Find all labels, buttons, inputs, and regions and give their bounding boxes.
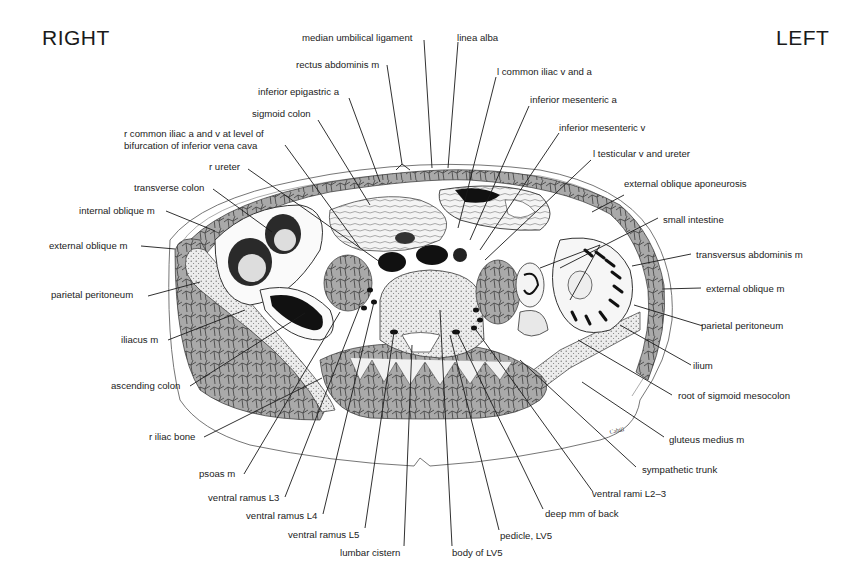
label-inferior-mesenteric-v: inferior mesenteric v bbox=[559, 122, 645, 133]
label-iliacus-m: iliacus m bbox=[121, 334, 158, 345]
label-internal-oblique-m: internal oblique m bbox=[79, 205, 155, 216]
label-parietal-peritoneum-right: parietal peritoneum bbox=[51, 289, 133, 300]
label-external-oblique-aponeurosis: external oblique aponeurosis bbox=[624, 178, 747, 189]
label-lumbar-cistern: lumbar cistern bbox=[340, 547, 400, 558]
label-sigmoid-colon: sigmoid colon bbox=[252, 108, 311, 119]
label-gluteus-medius-m: gluteus medius m bbox=[669, 434, 744, 445]
right-psoas bbox=[324, 255, 372, 311]
orientation-left: LEFT bbox=[776, 26, 829, 50]
label-rectus-abdominis-m: rectus abdominis m bbox=[296, 59, 379, 70]
label-ventral-ramus-l3: ventral ramus L3 bbox=[208, 492, 279, 503]
label-root-of-sigmoid-mesocolon: root of sigmoid mesocolon bbox=[678, 390, 790, 401]
label-ventral-ramus-l5: ventral ramus L5 bbox=[288, 529, 359, 540]
label-transverse-colon: transverse colon bbox=[134, 182, 204, 193]
orientation-right: RIGHT bbox=[42, 26, 110, 50]
label-ventral-rami-l2-3: ventral rami L2–3 bbox=[592, 488, 666, 499]
label-transversus-abdominis-m: transversus abdominis m bbox=[696, 249, 803, 260]
label-pedicle-lv5: pedicle, LV5 bbox=[500, 530, 552, 541]
label-ilium: ilium bbox=[693, 360, 713, 371]
label-l-common-iliac-v-and-a: l common iliac v and a bbox=[497, 66, 592, 77]
label-r-iliac-bone: r iliac bone bbox=[149, 431, 195, 442]
label-parietal-peritoneum-left: parietal peritoneum bbox=[701, 320, 783, 331]
label-inferior-mesenteric-a: inferior mesenteric a bbox=[530, 94, 617, 105]
label-r-common-iliac-line1: r common iliac a and v at level of bbox=[124, 128, 264, 139]
label-linea-alba: linea alba bbox=[457, 32, 498, 43]
label-r-ureter: r ureter bbox=[209, 161, 240, 172]
left-psoas bbox=[476, 260, 520, 324]
label-external-oblique-m-left: external oblique m bbox=[706, 283, 784, 294]
label-inferior-epigastric-a: inferior epigastric a bbox=[258, 86, 339, 97]
label-body-of-lv5: body of LV5 bbox=[452, 547, 503, 558]
label-median-umbilical-ligament: median umbilical ligament bbox=[302, 32, 412, 43]
label-sympathetic-trunk: sympathetic trunk bbox=[642, 464, 717, 475]
label-ascending-colon: ascending colon bbox=[111, 380, 180, 391]
label-r-common-iliac-line2: bifurcation of inferior vena cava bbox=[124, 140, 257, 151]
label-external-oblique-m-right: external oblique m bbox=[49, 240, 127, 251]
label-l-testicular-v-and-ureter: l testicular v and ureter bbox=[593, 148, 690, 159]
label-small-intestine: small intestine bbox=[663, 214, 724, 225]
label-psoas-m: psoas m bbox=[199, 468, 235, 479]
label-deep-mm-of-back: deep mm of back bbox=[545, 508, 619, 519]
label-ventral-ramus-l4: ventral ramus L4 bbox=[246, 510, 317, 521]
